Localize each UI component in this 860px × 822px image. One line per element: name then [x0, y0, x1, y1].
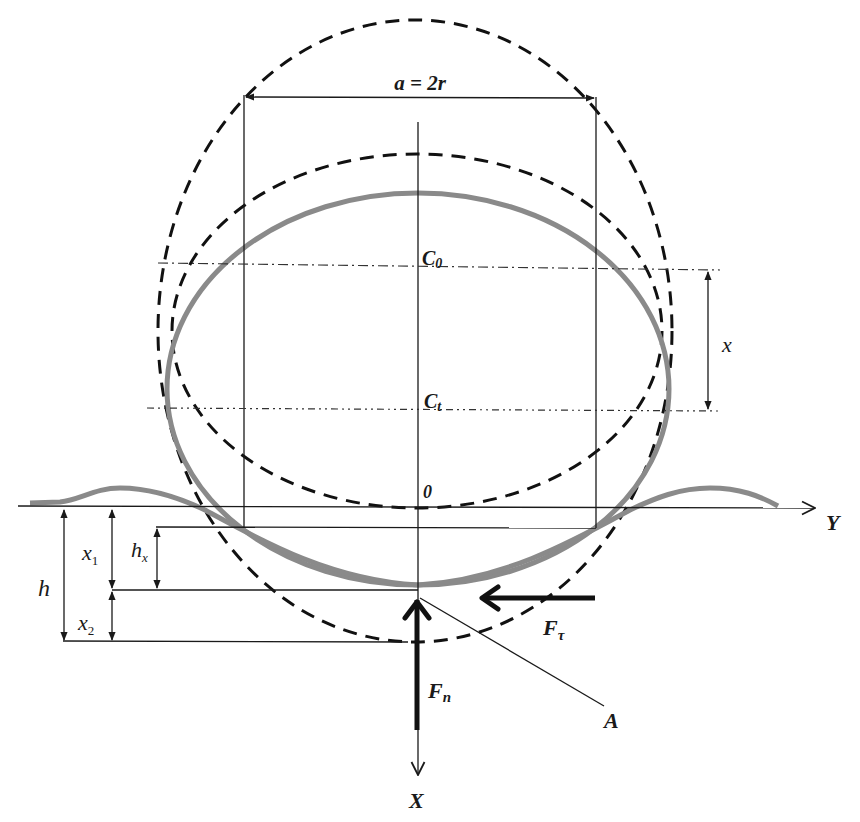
small-dashed-circle: [172, 154, 662, 508]
c0-label: C0: [422, 247, 442, 271]
soil-surface-profile: [30, 488, 778, 585]
hx-label: hx: [131, 537, 148, 565]
h-bottom-line: [63, 641, 408, 642]
tangential-force-label: Fτ: [542, 615, 566, 643]
h-label: h: [38, 575, 50, 601]
ct-label: Ct: [424, 390, 442, 414]
point-a-label: A: [602, 708, 619, 733]
hx-top-line: [156, 527, 596, 528]
y-axis-label: Y: [826, 510, 842, 535]
x2-label: x2: [77, 610, 94, 638]
normal-force-label: Fn: [427, 678, 451, 705]
width-dimension-arrow: [246, 97, 594, 98]
width-label: a = 2r: [394, 71, 446, 95]
offset-x-label: x: [721, 332, 732, 357]
origin-label: 0: [423, 482, 432, 502]
x-axis-label: X: [408, 788, 425, 813]
x1-label: x1: [81, 540, 98, 568]
large-dashed-circle: [158, 20, 672, 642]
diagram-canvas: a = 2r C0 Ct x 0 Y X h x1 x2 hx Fτ Fn A: [0, 0, 860, 822]
